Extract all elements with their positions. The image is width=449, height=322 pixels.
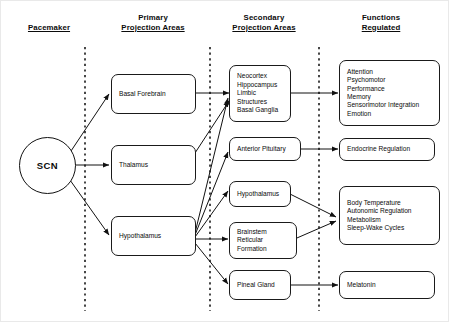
node-melatonin[interactable]: Melatonin <box>339 271 435 299</box>
node-brainstem[interactable]: Brainstem Reticular Formation <box>229 222 297 259</box>
column-header-secondary-line2: Projection Areas <box>216 23 312 33</box>
arrow-hypothalamus-sec-to-homeostatic-functions <box>290 194 336 217</box>
node-cognitive-functions-label: Attention Psychomotor Performance Memory… <box>347 68 419 118</box>
node-homeostatic-functions-label: Body Temperature Autonomic Regulation Me… <box>347 199 412 233</box>
node-hypothalamus-sec-label: Hypothalamus <box>237 190 279 198</box>
node-cognitive-functions[interactable]: Attention Psychomotor Performance Memory… <box>339 60 440 126</box>
column-header-functions-line2: Regulated <box>333 23 429 33</box>
node-neocortex-group-label: Neocortex Hippocampus Limbic Structures … <box>237 72 278 114</box>
arrow-thalamus-to-neocortex <box>195 101 229 153</box>
node-brainstem-label: Brainstem Reticular Formation <box>237 228 292 253</box>
column-header-functions: Functions Regulated <box>333 13 429 32</box>
node-hypothalamus-label: Hypothalamus <box>119 232 161 240</box>
arrow-scn-to-hypothalamus <box>65 173 109 235</box>
node-scn[interactable]: SCN <box>19 137 76 194</box>
node-anterior-pituitary[interactable]: Anterior Pituitary <box>229 137 301 161</box>
node-hypothalamus[interactable]: Hypothalamus <box>111 216 196 256</box>
column-header-functions-line1: Functions <box>333 13 429 23</box>
node-pineal-gland-label: Pineal Gland <box>237 281 275 289</box>
arrow-scn-to-basal-forebrain <box>67 94 109 157</box>
column-header-secondary-line1: Secondary <box>216 13 312 23</box>
node-thalamus-label: Thalamus <box>119 161 148 169</box>
column-header-secondary: Secondary Projection Areas <box>216 13 312 32</box>
node-neocortex-group[interactable]: Neocortex Hippocampus Limbic Structures … <box>229 65 291 122</box>
column-header-pacemaker-line2: Pacemaker <box>9 23 89 33</box>
node-thalamus[interactable]: Thalamus <box>111 145 196 185</box>
node-pineal-gland[interactable]: Pineal Gland <box>229 270 291 300</box>
arrow-hypothalamus-to-pineal-gland <box>195 243 228 284</box>
node-homeostatic-functions[interactable]: Body Temperature Autonomic Regulation Me… <box>339 186 440 245</box>
column-header-primary-line1: Primary <box>105 13 201 23</box>
node-melatonin-label: Melatonin <box>347 281 376 289</box>
node-basal-forebrain-label: Basal Forebrain <box>119 90 166 98</box>
diagram-canvas: Pacemaker Primary Projection Areas Secon… <box>0 0 449 322</box>
node-hypothalamus-sec[interactable]: Hypothalamus <box>229 181 291 207</box>
node-basal-forebrain[interactable]: Basal Forebrain <box>111 74 196 114</box>
column-header-pacemaker: Pacemaker <box>9 23 89 33</box>
column-header-primary: Primary Projection Areas <box>105 13 201 32</box>
column-header-primary-line2: Projection Areas <box>105 23 201 33</box>
node-endocrine-regulation[interactable]: Endocrine Regulation <box>339 138 435 161</box>
node-scn-label: SCN <box>37 160 58 171</box>
node-anterior-pituitary-label: Anterior Pituitary <box>237 145 286 153</box>
node-endocrine-regulation-label: Endocrine Regulation <box>347 145 410 153</box>
